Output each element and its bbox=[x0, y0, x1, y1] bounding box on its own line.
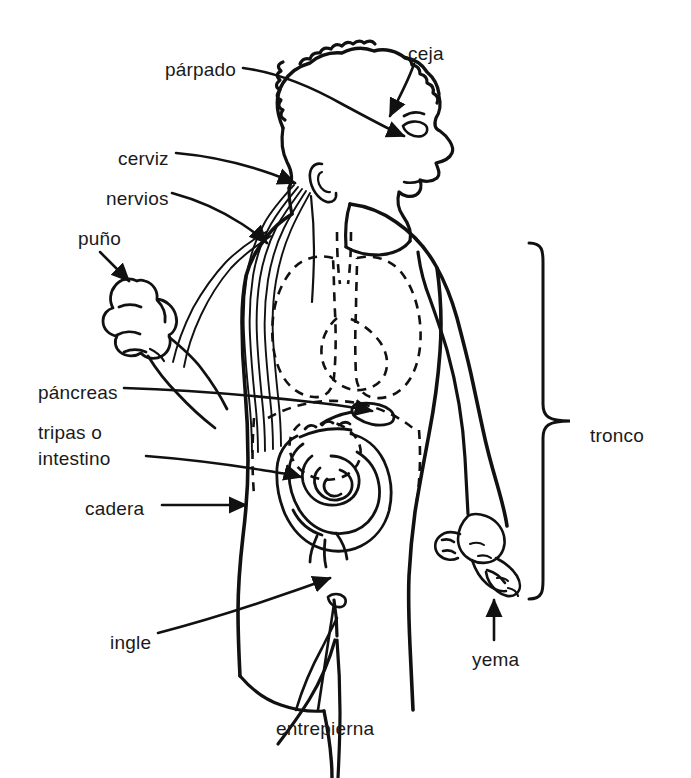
label-tronco: tronco bbox=[590, 424, 644, 447]
leader-ingle bbox=[158, 578, 330, 633]
label-intestino: tripas o intestino bbox=[38, 420, 111, 472]
leader-ceja bbox=[390, 64, 414, 116]
label-parpado: párpado bbox=[165, 58, 236, 81]
leader-cerviz bbox=[176, 153, 295, 183]
leader-entrepierna-b bbox=[296, 618, 337, 710]
label-cadera: cadera bbox=[85, 497, 144, 520]
body-outline bbox=[238, 41, 507, 778]
label-pancreas: páncreas bbox=[38, 381, 118, 404]
leader-entrepierna-a bbox=[318, 604, 334, 710]
leader-parpado bbox=[243, 68, 404, 136]
label-entrepierna: entrepierna bbox=[276, 717, 374, 740]
label-yema: yema bbox=[472, 648, 519, 671]
leader-puno bbox=[100, 252, 129, 281]
leader-nervios bbox=[172, 193, 267, 243]
tronco-brace bbox=[529, 243, 570, 599]
label-puno: puño bbox=[78, 227, 121, 250]
label-cerviz: cerviz bbox=[118, 147, 169, 170]
label-nervios: nervios bbox=[106, 187, 169, 210]
label-ceja: ceja bbox=[408, 42, 444, 65]
diagram-page: párpado ceja cerviz nervios puño páncrea… bbox=[0, 0, 691, 778]
label-ingle: ingle bbox=[110, 631, 151, 654]
